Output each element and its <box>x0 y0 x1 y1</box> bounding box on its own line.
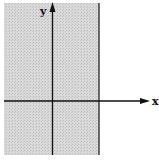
y-axis-label: y <box>40 6 46 17</box>
coordinate-plane <box>0 0 159 160</box>
shaded-region <box>4 3 99 155</box>
x-axis-label: x <box>152 96 159 107</box>
x-axis-arrow-icon <box>140 98 150 104</box>
